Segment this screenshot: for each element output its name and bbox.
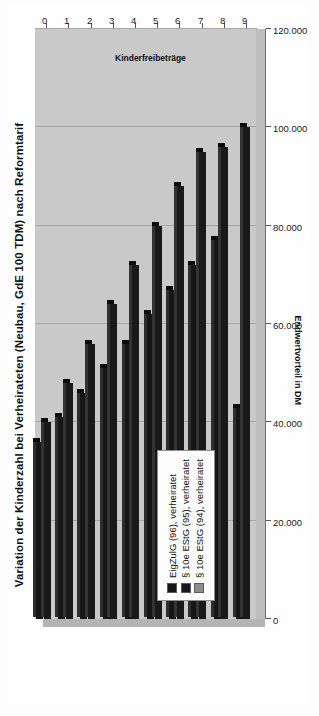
legend-swatch-icon — [181, 583, 191, 593]
value-tick-label: 40.000 — [273, 418, 302, 429]
category-tick-label-4: 4 — [131, 15, 136, 26]
bar-group — [57, 29, 79, 619]
rotated-figure-stage: Variation der Kinderzahl bei Verheiratet… — [7, 5, 307, 705]
value-tick-mark — [266, 225, 271, 226]
legend: EigZulG (96), verheiratet § 10e EStG (95… — [157, 450, 215, 601]
legend-label: EigZulG (96), verheiratet — [167, 474, 178, 578]
bar-0-series2 — [44, 422, 51, 619]
legend-item-eigzulg96: EigZulG (96), verheiratet — [167, 459, 178, 593]
chart-title: Variation der Kinderzahl bei Verheiratet… — [13, 5, 25, 705]
bar-1-series2 — [66, 383, 73, 619]
bar-9-series2 — [243, 127, 250, 619]
value-tick-mark — [266, 126, 271, 127]
category-tick-label-8: 8 — [220, 15, 225, 26]
axis-base-plate — [256, 29, 266, 619]
category-axis-title: Kinderfreibeträge — [115, 53, 186, 63]
value-tick-mark — [266, 421, 271, 422]
category-tick-label-1: 1 — [64, 15, 69, 26]
legend-item-estg95: § 10e EStG (95), verheiratet — [180, 459, 191, 593]
category-tick-label-9: 9 — [242, 15, 247, 26]
value-tick-mark — [266, 28, 271, 29]
bar-group — [35, 29, 57, 619]
bar-8-series2 — [221, 147, 228, 619]
category-tick-label-6: 6 — [175, 15, 180, 26]
bar-group — [235, 29, 257, 619]
value-axis-title: Endwertvorteil in DM — [293, 315, 303, 405]
bar-group — [79, 29, 101, 619]
legend-swatch-icon — [167, 583, 177, 593]
value-tick-label: 120.000 — [273, 25, 307, 36]
legend-label: § 10e EStG (95), verheiratet — [180, 459, 191, 578]
value-tick-label: 20.000 — [273, 517, 302, 528]
value-tick-mark — [266, 520, 271, 521]
figure-page: Variation der Kinderzahl bei Verheiratet… — [0, 0, 319, 716]
category-tick-label-0: 0 — [42, 15, 47, 26]
bar-2-series2 — [88, 344, 95, 619]
legend-label: § 10e EStG (94), verheiratet — [194, 459, 205, 578]
category-tick-label-5: 5 — [153, 15, 158, 26]
chart-figure: Variation der Kinderzahl bei Verheiratet… — [7, 5, 307, 705]
category-tick-label-3: 3 — [109, 15, 114, 26]
legend-swatch-icon — [194, 583, 204, 593]
value-tick-label: 0 — [273, 615, 278, 626]
category-tick-label-7: 7 — [198, 15, 203, 26]
category-tick-label-2: 2 — [87, 15, 92, 26]
bar-group — [124, 29, 146, 619]
bar-3-series2 — [110, 304, 117, 619]
scan-frame: Variation der Kinderzahl bei Verheiratet… — [7, 5, 307, 705]
value-tick-mark — [266, 618, 271, 619]
bar-4-series2 — [132, 265, 139, 619]
bar-group — [213, 29, 235, 619]
value-tick-mark — [266, 323, 271, 324]
legend-item-estg94: § 10e EStG (94), verheiratet — [194, 459, 205, 593]
bar-group — [102, 29, 124, 619]
plot-area-wrapper — [35, 29, 257, 619]
value-tick-label: 80.000 — [273, 222, 302, 233]
plot-area — [35, 28, 257, 619]
value-tick-label: 100.000 — [273, 123, 307, 134]
